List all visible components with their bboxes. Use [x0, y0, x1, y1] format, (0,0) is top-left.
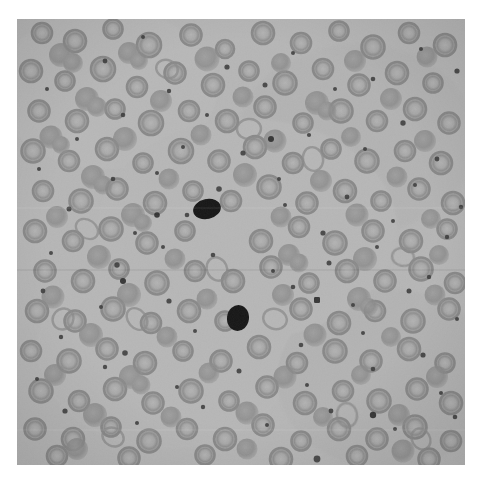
micrograph-image: [17, 19, 465, 465]
vignette-overlay: [17, 19, 465, 465]
micrograph-canvas: [17, 19, 465, 465]
screenshot-root: micrograph peripheral-blood-smear bright…: [0, 0, 488, 479]
